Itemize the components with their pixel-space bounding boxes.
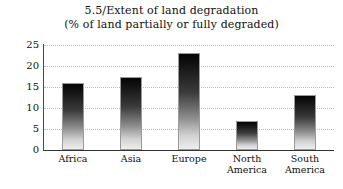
bar-series — [44, 45, 334, 150]
chart-title-block: 5.5/Extent of land degradation (% of lan… — [0, 4, 343, 32]
bar-slot — [102, 45, 160, 150]
bar — [178, 53, 200, 150]
bar — [62, 83, 84, 150]
chart-title: 5.5/Extent of land degradation — [0, 4, 343, 18]
bar-slot — [44, 45, 102, 150]
y-tick-label: 15 — [0, 82, 39, 92]
x-axis-line — [43, 150, 334, 151]
bar-slot — [218, 45, 276, 150]
chart-subtitle: (% of land partially or fully degraded) — [0, 18, 343, 32]
x-tick-label: Europe — [160, 153, 218, 164]
y-axis-line — [43, 44, 44, 150]
y-tick-label: 20 — [0, 61, 39, 71]
x-tick-label-line: America — [218, 164, 276, 175]
bar-slot — [276, 45, 334, 150]
bar — [120, 77, 142, 151]
x-tick-label-line: Europe — [160, 153, 218, 164]
y-axis-tick-labels: 2520151050 — [0, 45, 39, 150]
x-axis-tick-labels: AfricaAsiaEuropeNorthAmericaSouthAmerica — [44, 153, 334, 187]
x-tick-label: Asia — [102, 153, 160, 164]
y-tick-label: 5 — [0, 124, 39, 134]
x-tick-label-line: South — [276, 153, 334, 164]
x-tick-label: SouthAmerica — [276, 153, 334, 175]
x-tick-label-line: Asia — [102, 153, 160, 164]
bar-slot — [160, 45, 218, 150]
y-tick-label: 10 — [0, 103, 39, 113]
bar — [294, 95, 316, 150]
y-tick-label: 0 — [0, 145, 39, 155]
y-tick-label: 25 — [0, 40, 39, 50]
chart-figure: 5.5/Extent of land degradation (% of lan… — [0, 0, 343, 189]
bar — [236, 121, 258, 150]
x-tick-label-line: Africa — [44, 153, 102, 164]
plot-area — [44, 45, 334, 150]
x-tick-label-line: America — [276, 164, 334, 175]
x-tick-label: Africa — [44, 153, 102, 164]
x-tick-label: NorthAmerica — [218, 153, 276, 175]
x-tick-label-line: North — [218, 153, 276, 164]
